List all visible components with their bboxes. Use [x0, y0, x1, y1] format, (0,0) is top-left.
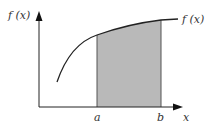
x-axis-label: x	[183, 111, 190, 124]
x-axis-arrow-icon	[173, 104, 183, 111]
curve-label: f (x)	[181, 13, 204, 26]
lower-bound-label: a	[94, 111, 101, 124]
y-axis-arrow-icon	[36, 11, 43, 21]
y-axis-label: f (x)	[7, 9, 30, 22]
integral-diagram: f (x) f (x) a b x	[0, 0, 212, 125]
upper-bound-label: b	[157, 111, 164, 124]
shaded-area	[97, 20, 161, 107]
